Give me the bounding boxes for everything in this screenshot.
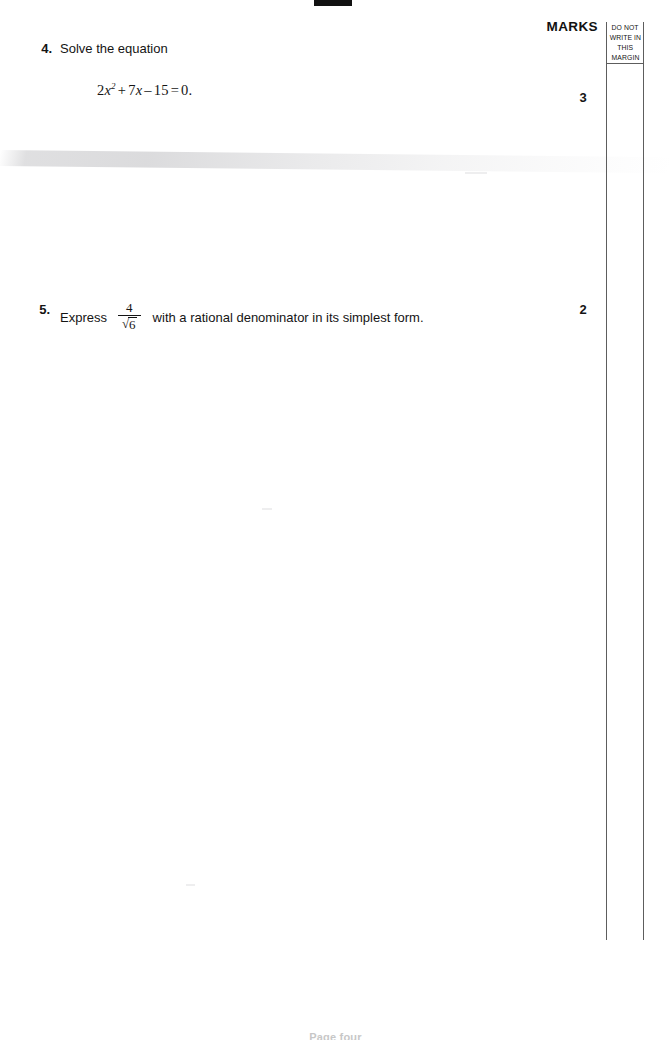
eq4-constant: 15	[154, 82, 169, 98]
margin-note-line-4: MARGIN	[611, 53, 639, 63]
fraction-denominator: √ 6	[118, 316, 141, 331]
margin-rule-right	[643, 22, 644, 940]
scan-smudge-artifact	[0, 150, 671, 173]
eq4-period: .	[188, 82, 192, 98]
top-black-bar	[314, 0, 352, 6]
margin-rule-left	[606, 22, 607, 940]
scan-fleck	[262, 508, 272, 510]
margin-note-line-2: WRITE IN	[609, 33, 640, 43]
question-4-number: 4.	[26, 41, 52, 56]
scan-fleck	[186, 884, 195, 886]
question-5-marks: 2	[563, 302, 603, 317]
question-4-equation: 2x2+7x–15=0.	[97, 81, 192, 99]
radicand: 6	[128, 317, 137, 331]
square-root-icon: √ 6	[122, 317, 137, 331]
scan-fleck	[465, 172, 487, 174]
question-5-number: 5.	[24, 302, 50, 317]
fraction-four-over-root-six: 4 √ 6	[118, 301, 141, 331]
eq4-coeff-b: 7	[128, 82, 135, 98]
question-4-marks: 3	[563, 90, 603, 105]
question-5-prompt-after: with a rational denominator in its simpl…	[153, 310, 424, 325]
question-5-prompt-before: Express	[60, 310, 107, 325]
eq4-operator-plus: +	[116, 82, 128, 98]
question-4-prompt: Solve the equation	[60, 41, 168, 56]
margin-note-line-3: THIS	[617, 43, 633, 53]
fraction-numerator: 4	[122, 301, 137, 315]
do-not-write-margin-box: DO NOT WRITE IN THIS MARGIN	[606, 22, 644, 64]
eq4-equals: =	[169, 82, 181, 98]
page-footer: Page four	[0, 1031, 671, 1040]
exam-page: MARKS DO NOT WRITE IN THIS MARGIN 4. Sol…	[0, 0, 671, 1040]
marks-column-header: MARKS	[500, 19, 598, 34]
eq4-operator-minus: –	[142, 82, 153, 98]
question-5-body: Express 4 √ 6 with a rational denominato…	[60, 302, 424, 332]
margin-note-line-1: DO NOT	[611, 23, 638, 33]
